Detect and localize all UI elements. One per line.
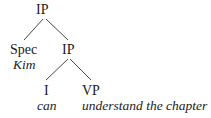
word-can: can bbox=[37, 99, 57, 113]
node-spec: Spec bbox=[10, 43, 37, 57]
edge-ip-spec bbox=[24, 19, 43, 40]
edge-ip2-vp bbox=[70, 59, 91, 80]
node-vp: VP bbox=[82, 84, 100, 98]
node-ip-root: IP bbox=[36, 3, 48, 17]
edge-ip-ip bbox=[46, 19, 68, 40]
edge-ip2-i bbox=[46, 59, 68, 80]
node-ip-inner: IP bbox=[62, 43, 74, 57]
word-understand-the-chapter: understand the chapter bbox=[82, 99, 207, 113]
word-kim: Kim bbox=[13, 58, 36, 72]
node-i: I bbox=[44, 84, 49, 98]
